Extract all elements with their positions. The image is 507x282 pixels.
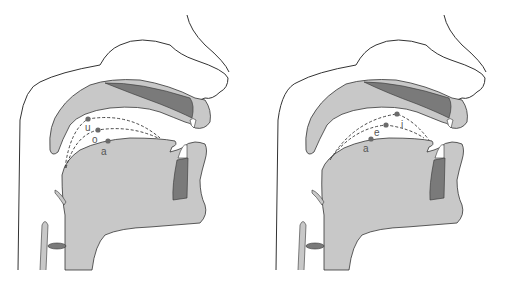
vowel-label-u: u [85, 122, 91, 133]
vowel-label-a: a [363, 143, 369, 154]
marker-o [95, 127, 100, 132]
diagram-back-vowels: u o a [0, 0, 253, 282]
vocal-tract-sagittal-left: u o a [0, 0, 253, 282]
marker-i [394, 111, 399, 116]
vowel-label-a: a [101, 146, 107, 157]
vocal-tract-sagittal-right: i e a [254, 0, 507, 282]
vowel-label-e: e [374, 127, 380, 138]
trachea-wall [40, 222, 48, 271]
marker-a [105, 138, 110, 143]
trachea-wall [298, 222, 306, 271]
vocal-folds [306, 243, 324, 249]
nose-outline [187, 15, 229, 72]
vowel-label-i: i [401, 119, 403, 130]
marker-u [85, 116, 90, 121]
marker-e [383, 122, 388, 127]
vowel-label-o: o [92, 134, 98, 145]
marker-a [368, 136, 373, 141]
nose-outline [444, 15, 486, 72]
vocal-folds [48, 243, 66, 249]
diagram-front-vowels: i e a [254, 0, 507, 282]
